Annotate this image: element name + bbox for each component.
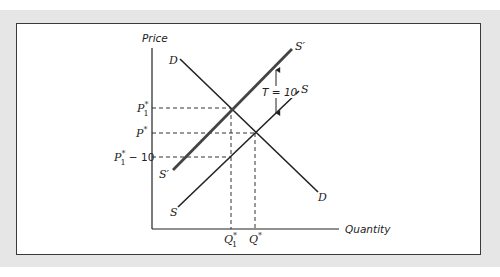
- x-axis-label: Quantity: [345, 223, 391, 235]
- supply-label-top: S: [301, 83, 309, 96]
- supply-tax-label-top: S′: [295, 40, 306, 53]
- tax-arrow: T = 10: [262, 70, 298, 113]
- p1-star-label: P*1: [136, 100, 149, 118]
- axes: Price Quantity: [142, 32, 391, 235]
- q-star-label: Q*: [249, 231, 262, 246]
- supply-with-tax-curve: [173, 49, 292, 170]
- q1-star-label: Q*1: [224, 231, 237, 249]
- supply-demand-tax-diagram: Price Quantity T = 10 D D S S S′ S′ P*1: [0, 0, 500, 277]
- curve-labels: D D S S S′ S′: [159, 40, 327, 219]
- p1-star-minus-10-label: P*1 − 10: [113, 149, 154, 167]
- quantity-tick-labels: Q*1 Q*: [224, 231, 262, 249]
- y-axis-label: Price: [142, 32, 168, 44]
- tax-label: T = 10: [262, 86, 298, 98]
- supply-label-bottom: S: [170, 206, 178, 219]
- demand-label-top: D: [168, 54, 178, 67]
- demand-curve: [180, 59, 318, 192]
- price-tick-labels: P*1 P* P*1 − 10: [113, 100, 154, 167]
- supply-tax-label-bottom: S′: [159, 168, 170, 181]
- p-star-label: P*: [135, 125, 147, 140]
- curves: [173, 49, 318, 207]
- demand-label-bottom: D: [317, 191, 327, 204]
